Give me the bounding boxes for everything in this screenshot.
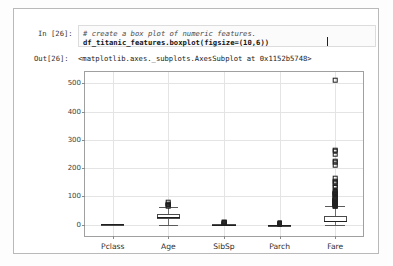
outlier-point	[333, 78, 338, 83]
x-tick-label-parch: Parch	[269, 242, 290, 251]
x-gridline	[280, 72, 281, 236]
y-tick-mark	[82, 196, 85, 197]
x-tick-label-pclass: Pclass	[101, 242, 124, 251]
outlier-point	[333, 158, 338, 163]
code-input-area[interactable]: # create a box plot of numeric features.…	[78, 25, 376, 47]
y-tick-label: 400	[68, 108, 81, 116]
y-tick-mark	[82, 112, 85, 113]
outlier-point	[333, 148, 338, 153]
y-tick-label: 300	[68, 136, 81, 144]
outlier-point	[222, 220, 227, 225]
y-tick-mark	[82, 168, 85, 169]
text-caret	[327, 37, 328, 46]
notebook-page: In [26]: # create a box plot of numeric …	[0, 0, 393, 266]
x-tick-mark	[280, 236, 281, 239]
input-prompt-label: In [26]:	[38, 29, 73, 38]
whisker-cap-lower	[159, 225, 179, 226]
y-tick-mark	[82, 140, 85, 141]
output-repr-text: <matplotlib.axes._subplots.AxesSubplot a…	[78, 54, 312, 63]
notebook-cell: In [26]: # create a box plot of numeric …	[13, 8, 379, 254]
output-prompt-label: Out[26]:	[34, 54, 69, 63]
x-gridline	[224, 72, 225, 236]
y-tick-label: 200	[68, 164, 81, 172]
code-comment-line: # create a box plot of numeric features.	[83, 29, 256, 38]
boxplot-axes: 0100200300400500PclassAgeSibSpParchFare	[84, 71, 364, 237]
matplotlib-figure: 0100200300400500PclassAgeSibSpParchFare	[49, 71, 374, 251]
x-tick-mark	[335, 236, 336, 239]
x-gridline	[113, 72, 114, 236]
outlier-point	[277, 221, 282, 226]
x-tick-mark	[113, 236, 114, 239]
whisker-cap-lower	[325, 225, 345, 226]
y-tick-mark	[82, 83, 85, 84]
median-line	[157, 217, 180, 218]
y-tick-label: 500	[68, 79, 81, 87]
y-tick-mark	[82, 225, 85, 226]
x-tick-label-sibsp: SibSp	[213, 242, 234, 251]
x-tick-label-age: Age	[161, 242, 176, 251]
outlier-point	[333, 188, 338, 193]
y-tick-label: 0	[77, 221, 81, 229]
x-tick-label-fare: Fare	[327, 242, 343, 251]
x-tick-mark	[224, 236, 225, 239]
median-line	[324, 221, 347, 222]
outlier-point	[333, 153, 338, 158]
outlier-point	[333, 176, 338, 181]
x-tick-mark	[168, 236, 169, 239]
median-line	[101, 224, 124, 225]
y-tick-label: 100	[68, 192, 81, 200]
outlier-point	[166, 200, 171, 205]
code-statement-line: df_titanic_features.boxplot(figsize=(10,…	[83, 38, 269, 47]
